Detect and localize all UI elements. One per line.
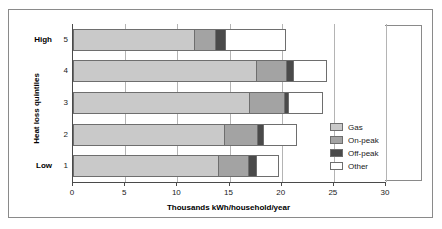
x-tick-label: 15	[224, 188, 233, 197]
x-tick-mark	[124, 182, 125, 186]
legend-swatch-icon	[330, 123, 343, 131]
chart-figure: 051015202530 12345HighLow Heat loss quin…	[0, 0, 442, 229]
bar-row	[73, 155, 279, 177]
bar-segment-gas	[73, 124, 225, 146]
bar-row	[73, 124, 297, 146]
x-axis-title: Thousands kWh/household/year	[72, 203, 385, 212]
legend-item-off-peak[interactable]: Off-peak	[330, 147, 416, 159]
legend-label: Off-peak	[348, 149, 379, 158]
chart-legend: GasOn-peakOff-peakOther	[330, 121, 416, 173]
bar-row	[73, 60, 327, 82]
x-tick-label: 10	[172, 188, 181, 197]
legend-label: On-peak	[348, 136, 379, 145]
bar-segment-other	[289, 92, 323, 114]
bar-segment-on-peak	[225, 124, 257, 146]
y-axis-line	[72, 24, 73, 182]
x-tick-label: 5	[122, 188, 126, 197]
x-tick-label: 20	[276, 188, 285, 197]
bar-row	[73, 29, 286, 51]
bar-segment-off-peak	[216, 29, 226, 51]
bar-segment-gas	[73, 29, 195, 51]
legend-label: Other	[348, 162, 368, 171]
bar-segment-gas	[73, 155, 219, 177]
bar-segment-other	[294, 60, 326, 82]
y-category-label-5: 5	[54, 35, 68, 44]
x-tick-mark	[333, 182, 334, 186]
bar-segment-gas	[73, 60, 257, 82]
bar-segment-gas	[73, 92, 250, 114]
y-axis-title: Heat loss quintiles	[32, 49, 41, 169]
bar-segment-on-peak	[195, 29, 216, 51]
bar-segment-other	[257, 155, 279, 177]
legend-item-other[interactable]: Other	[330, 160, 416, 172]
x-tick-mark	[229, 182, 230, 186]
y-category-label-1: 1	[54, 161, 68, 170]
x-tick-mark	[176, 182, 177, 186]
bar-segment-on-peak	[219, 155, 249, 177]
legend-swatch-icon	[330, 136, 343, 144]
x-tick-label: 25	[328, 188, 337, 197]
x-tick-label: 0	[70, 188, 74, 197]
y-axis-end-label-high: High	[18, 35, 52, 44]
y-category-label-2: 2	[54, 130, 68, 139]
bar-segment-off-peak	[249, 155, 256, 177]
x-tick-mark	[72, 182, 73, 186]
bar-segment-other	[264, 124, 297, 146]
y-category-label-3: 3	[54, 98, 68, 107]
bar-row	[73, 92, 323, 114]
bar-segment-on-peak	[250, 92, 284, 114]
x-tick-label: 30	[381, 188, 390, 197]
y-category-label-4: 4	[54, 66, 68, 75]
bar-segment-other	[226, 29, 285, 51]
bar-segment-off-peak	[287, 60, 294, 82]
x-tick-mark	[385, 182, 386, 186]
legend-swatch-icon	[330, 149, 343, 157]
bar-segment-on-peak	[257, 60, 287, 82]
legend-swatch-icon	[330, 162, 343, 170]
legend-label: Gas	[348, 123, 363, 132]
x-tick-mark	[281, 182, 282, 186]
legend-item-gas[interactable]: Gas	[330, 121, 416, 133]
legend-item-on-peak[interactable]: On-peak	[330, 134, 416, 146]
